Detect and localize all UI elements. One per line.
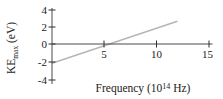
y-tick-label: 4 bbox=[42, 4, 48, 16]
y-tick-label: 0 bbox=[42, 38, 48, 50]
y-tick-label: -2 bbox=[38, 56, 47, 68]
x-tick-label: 5 bbox=[101, 48, 107, 60]
chart-canvas: 4 2 0 -2 -4 5 10 15 KEmax (eV) Frequency… bbox=[0, 0, 223, 99]
x-axis-label-unit: Hz) bbox=[170, 82, 190, 95]
x-tick-label: 10 bbox=[151, 48, 163, 60]
y-axis-label-subscript: max bbox=[11, 46, 20, 59]
y-axis-label: KEmax (eV) bbox=[5, 22, 20, 74]
x-tick-label: 15 bbox=[202, 48, 214, 60]
y-tick-label: 2 bbox=[42, 21, 48, 33]
y-axis-label-unit: (eV) bbox=[5, 22, 18, 46]
y-axis-label-main: KE bbox=[5, 59, 17, 74]
y-tick-label: -4 bbox=[38, 74, 48, 86]
photoelectric-effect-chart: 4 2 0 -2 -4 5 10 15 KEmax (eV) Frequency… bbox=[0, 0, 223, 99]
x-axis-label: Frequency (1014 Hz) bbox=[96, 82, 191, 96]
x-axis-label-superscript: 14 bbox=[162, 82, 170, 91]
x-axis-label-main: Frequency (10 bbox=[96, 82, 163, 95]
